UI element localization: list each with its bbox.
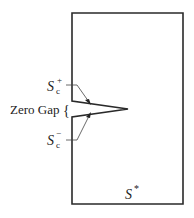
body-outline [72, 13, 183, 204]
svg-text:c: c [56, 86, 60, 96]
brace-icon: { [63, 103, 70, 118]
svg-text:S: S [47, 79, 54, 94]
svg-text:−: − [56, 128, 61, 138]
svg-text:c: c [56, 140, 60, 150]
svg-text:+: + [57, 75, 62, 85]
label-s-c-plus: S c + [47, 75, 62, 96]
label-s-star: S * [125, 183, 139, 202]
svg-text:*: * [134, 183, 139, 194]
label-zero-gap: Zero Gap [10, 102, 59, 117]
crack-diagram: S c + Zero Gap { S c − S * [0, 0, 194, 218]
svg-text:S: S [47, 133, 54, 148]
svg-text:S: S [125, 187, 132, 202]
label-s-c-minus: S c − [47, 128, 61, 150]
